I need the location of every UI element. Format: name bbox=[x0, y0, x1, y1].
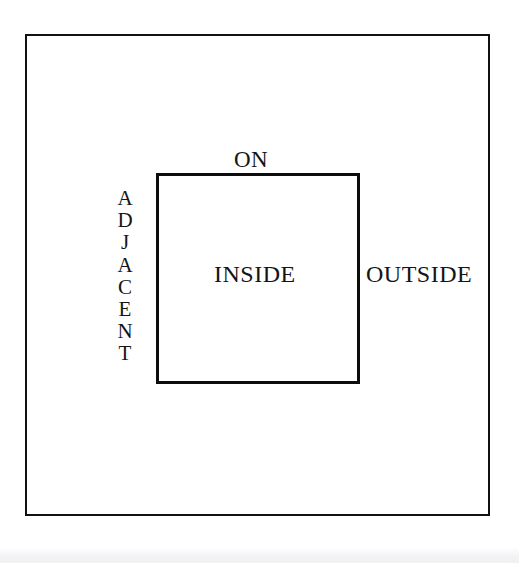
adjacent-letter: N bbox=[117, 320, 132, 342]
adjacent-letter: A bbox=[117, 187, 132, 209]
adjacent-letter: A bbox=[117, 254, 132, 276]
adjacent-letter: T bbox=[119, 342, 132, 364]
page-edge-shading bbox=[0, 547, 519, 563]
adjacent-letter: E bbox=[119, 298, 132, 320]
diagram-canvas: ON INSIDE OUTSIDE ADJACENT bbox=[0, 0, 519, 563]
label-outside: OUTSIDE bbox=[366, 262, 472, 286]
adjacent-letter: C bbox=[118, 276, 132, 298]
adjacent-letter: D bbox=[117, 209, 132, 231]
label-on: ON bbox=[234, 148, 268, 171]
adjacent-letter: J bbox=[121, 231, 129, 253]
label-inside: INSIDE bbox=[214, 262, 296, 286]
label-adjacent: ADJACENT bbox=[114, 187, 136, 365]
